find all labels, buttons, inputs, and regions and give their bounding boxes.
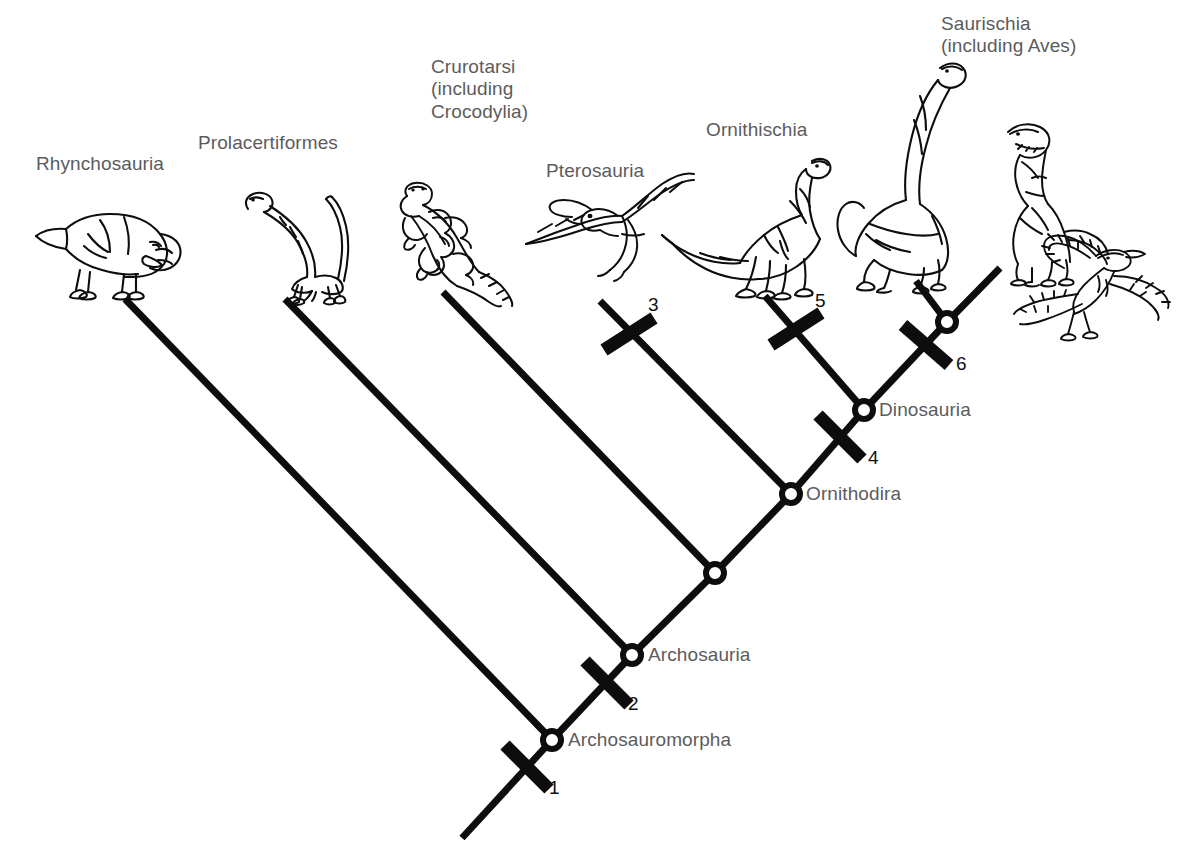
node-label-ornithodira: Ornithodira xyxy=(806,483,901,505)
node-unnamed-ornithodira-parent xyxy=(706,564,724,582)
node-dinosauria xyxy=(855,401,873,419)
taxon-label-crurotarsi: Crurotarsi (including Crocodylia) xyxy=(431,56,528,123)
node-archosauria xyxy=(623,646,641,664)
node-ornithodira xyxy=(782,485,800,503)
taxon-label-ornithischia: Ornithischia xyxy=(706,119,808,141)
synapomorphy-number-3: 3 xyxy=(648,294,659,316)
synapomorphy-number-1: 1 xyxy=(549,777,560,799)
taxon-label-saurischia: Saurischia (including Aves) xyxy=(941,13,1076,58)
node-label-archosauromorpha: Archosauromorpha xyxy=(568,729,731,751)
sauropod-illustration xyxy=(836,56,976,291)
branch-archosauria-next xyxy=(632,573,715,655)
synapomorphy-number-2: 2 xyxy=(628,693,639,715)
taxon-label-prolacertiformes: Prolacertiformes xyxy=(198,132,338,154)
archaeopteryx-illustration xyxy=(1010,232,1180,342)
branch-prolacertiformes xyxy=(285,299,632,655)
synapomorphy-number-6: 6 xyxy=(956,353,967,375)
rhynchosaur-illustration xyxy=(28,198,188,303)
branch-crurotarsi xyxy=(443,292,715,573)
branch-rhynchosauria xyxy=(125,299,552,740)
node-archosauromorpha xyxy=(543,731,561,749)
synapomorphy-number-5: 5 xyxy=(815,290,826,312)
synapomorphy-number-4: 4 xyxy=(868,447,879,469)
taxon-label-rhynchosauria: Rhynchosauria xyxy=(36,153,164,175)
synapomorphy-bar-5 xyxy=(771,313,821,345)
tree-branches xyxy=(125,268,1000,838)
branch-unnamed-ornithodira xyxy=(715,494,791,573)
node-label-dinosauria: Dinosauria xyxy=(879,399,971,421)
ornithischian-illustration xyxy=(660,145,835,300)
prolacertiform-illustration xyxy=(240,165,350,305)
taxon-label-pterosauria: Pterosauria xyxy=(546,160,644,182)
node-label-archosauria: Archosauria xyxy=(648,644,750,666)
cladogram-figure: Rhynchosauria Prolacertiformes Crurotars… xyxy=(0,0,1199,861)
node-saurischia xyxy=(938,313,956,331)
